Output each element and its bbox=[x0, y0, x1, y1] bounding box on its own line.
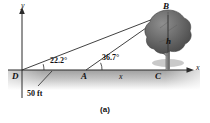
sightline-D-to-B bbox=[22, 14, 166, 70]
point-label-a: A bbox=[81, 72, 87, 81]
segment-label-x: x bbox=[119, 73, 123, 81]
angle-label-37: 36.7° bbox=[102, 54, 119, 62]
ground-shading bbox=[8, 70, 200, 90]
angle-arc-22 bbox=[43, 64, 44, 70]
point-label-d: D bbox=[12, 72, 19, 81]
point-label-c: C bbox=[155, 72, 161, 81]
distance-label-50ft: 50 ft bbox=[27, 90, 42, 98]
figure-container: y x B D A C h x 22.2° 36.7° 50 ft (a) bbox=[0, 0, 210, 123]
x-axis-label: x bbox=[196, 64, 200, 72]
angle-arc-37 bbox=[101, 63, 102, 70]
point-label-b: B bbox=[163, 2, 169, 11]
y-axis-label: y bbox=[21, 2, 25, 10]
figure-caption: (a) bbox=[0, 106, 210, 114]
angle-label-22: 22.2° bbox=[50, 57, 67, 65]
height-label-h: h bbox=[166, 37, 171, 46]
